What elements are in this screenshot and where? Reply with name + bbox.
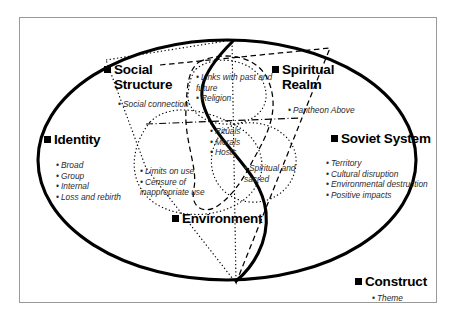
list-item: •Loss and rebirth [56,192,121,203]
list-item: •Environmental destruction [326,179,428,190]
group-items-spiritual-realm: •Pantheon Above [288,105,355,116]
list-item: •Rituals [210,126,241,137]
bullet-square-icon [44,136,51,143]
legend-heading-construct: Construct [355,275,427,290]
list-item: •Spiritual and sacred [244,163,306,184]
diagram-canvas: Identity •Broad •Group •Internal •Loss a… [0,0,457,320]
dash-dot-separator [146,118,300,124]
bullet-square-icon [104,66,111,73]
bullet-square-icon [331,135,338,142]
overlap-items-rituals: •Rituals •Morals •Hosts [210,126,241,158]
list-item: •Internal [56,181,121,192]
bullet-square-icon [172,215,179,222]
list-item: •Limits on use [140,166,222,177]
list-item: •Links with past and future [196,72,274,93]
list-item: •Territory [326,158,428,169]
list-item: •Group [56,171,121,182]
overlap-items-links-religion: •Links with past and future •Religion [196,72,274,104]
list-item: •Theme [372,293,403,304]
list-item: •Cultural disruption [326,169,428,180]
list-item: •Morals [210,137,241,148]
legend-items-construct: •Theme [372,293,403,304]
group-items-soviet-system: •Territory •Cultural disruption •Environ… [326,158,428,200]
list-item: •Censure of inappropriate use [140,177,222,198]
group-heading-identity: Identity [44,133,100,148]
bullet-square-icon [355,278,362,285]
group-items-social-structure: •Social connection [118,99,189,110]
group-heading-social-structure: Social Structure [104,63,172,92]
overlap-items-limits-censure: •Limits on use •Censure of inappropriate… [140,166,222,198]
list-item: •Social connection [118,99,189,110]
group-items-identity: •Broad •Group •Internal •Loss and rebirt… [56,160,121,202]
list-item: •Hosts [210,147,241,158]
list-item: •Pantheon Above [288,105,355,116]
group-heading-soviet-system: Soviet System [331,132,431,147]
list-item: •Positive impacts [326,190,428,201]
list-item: •Religion [196,93,274,104]
list-item: •Broad [56,160,121,171]
group-heading-environment: Environment [172,212,262,227]
group-heading-spiritual-realm: Spiritual Realm [272,63,334,92]
overlap-items-spiritual-sacred: •Spiritual and sacred [244,163,306,184]
